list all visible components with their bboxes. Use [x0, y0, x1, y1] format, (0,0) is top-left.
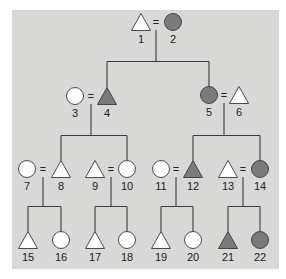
individual-label: 1	[138, 33, 144, 45]
unaffected-circle-icon	[19, 161, 36, 178]
marriage-symbol: =	[88, 90, 94, 102]
individual-label: 20	[187, 251, 199, 263]
affected-circle-icon	[165, 14, 182, 31]
individual-label: 16	[55, 251, 67, 263]
individual-label: 2	[170, 33, 176, 45]
pedigree-diagram: ======= 12345678910111213141516171819202…	[0, 0, 286, 279]
individual-label: 9	[92, 180, 98, 192]
unaffected-circle-icon	[119, 161, 136, 178]
unaffected-circle-icon	[53, 232, 70, 249]
individual-label: 4	[104, 107, 110, 119]
individual-label: 15	[22, 251, 34, 263]
marriage-symbol: =	[221, 89, 227, 101]
affected-circle-icon	[201, 87, 218, 104]
individual-label: 10	[121, 180, 133, 192]
individual-label: 17	[89, 251, 101, 263]
individual-label: 22	[254, 251, 266, 263]
individual-label: 5	[206, 106, 212, 118]
individual-label: 18	[121, 251, 133, 263]
affected-circle-icon	[252, 232, 269, 249]
diagram-panel	[12, 10, 279, 269]
affected-circle-icon	[252, 161, 269, 178]
unaffected-circle-icon	[185, 232, 202, 249]
individual-label: 6	[236, 106, 242, 118]
individual-label: 8	[58, 180, 64, 192]
marriage-symbol: =	[108, 163, 114, 175]
individual-label: 21	[222, 251, 234, 263]
individual-label: 13	[222, 180, 234, 192]
individual-label: 14	[254, 180, 266, 192]
marriage-symbol: =	[40, 163, 46, 175]
individual-label: 7	[24, 180, 30, 192]
marriage-symbol: =	[173, 163, 179, 175]
marriage-symbol: =	[153, 16, 159, 28]
unaffected-circle-icon	[67, 88, 84, 105]
individual-label: 19	[155, 251, 167, 263]
unaffected-circle-icon	[153, 161, 170, 178]
individual-label: 12	[187, 180, 199, 192]
unaffected-circle-icon	[119, 232, 136, 249]
individual-label: 11	[155, 180, 166, 192]
marriage-symbol: =	[240, 163, 246, 175]
individual-label: 3	[72, 107, 78, 119]
